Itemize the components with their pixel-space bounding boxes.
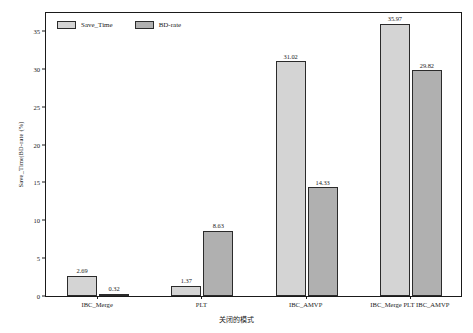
legend-entry-save-time: Save_Time <box>57 21 113 29</box>
bar-value-label: 0.32 <box>109 285 120 292</box>
bar-value-label: 8.63 <box>213 222 224 229</box>
y-tick-label: 30 <box>14 65 40 72</box>
chart-legend: Save_Time BD-rate <box>53 19 185 31</box>
bar-value-label: 2.69 <box>77 267 88 274</box>
legend-entry-bd-rate: BD-rate <box>135 21 182 29</box>
x-tick-mark <box>201 296 202 299</box>
bar-bd-rate-3 <box>412 70 442 296</box>
legend-label-bd-rate: BD-rate <box>159 21 182 29</box>
bar-value-label: 14.33 <box>315 179 329 186</box>
y-tick-label: 5 <box>14 255 40 262</box>
bar-value-label: 31.02 <box>283 53 297 60</box>
bar-save-time-1 <box>171 286 201 296</box>
y-tick-label: 20 <box>14 141 40 148</box>
x-group-label: IBC_AMVP <box>289 301 322 308</box>
bar-bd-rate-2 <box>308 187 338 296</box>
bar-save-time-2 <box>276 61 306 296</box>
plot-area: 2.690.321.378.6331.0214.3335.9729.82 Sav… <box>45 12 462 297</box>
x-group-label: PLT <box>196 301 207 308</box>
y-tick-label: 15 <box>14 179 40 186</box>
bar-value-label: 29.82 <box>420 62 434 69</box>
x-axis-title: 关闭的模式 <box>0 314 473 324</box>
legend-swatch-bd-rate <box>135 21 154 29</box>
x-tick-mark <box>97 296 98 299</box>
y-tick-label: 10 <box>14 217 40 224</box>
x-group-label: IBC_Merge PLT IBC_AMVP <box>370 301 449 308</box>
bar-value-label: 35.97 <box>388 15 402 22</box>
x-tick-mark <box>306 296 307 299</box>
x-group-label: IBC_Merge <box>81 301 112 308</box>
bar-save-time-3 <box>380 24 410 296</box>
y-tick-label: 0 <box>14 293 40 300</box>
legend-label-save-time: Save_Time <box>81 21 113 29</box>
bar-save-time-0 <box>67 276 97 296</box>
y-tick-label: 25 <box>14 103 40 110</box>
x-tick-mark <box>410 296 411 299</box>
bar-value-label: 1.37 <box>181 277 192 284</box>
legend-swatch-save-time <box>57 21 76 29</box>
bar-bd-rate-0 <box>99 294 129 296</box>
bar-chart: Save_Time|BD-rate (%) 05101520253035 2.6… <box>0 0 473 333</box>
y-tick-label: 35 <box>14 27 40 34</box>
bar-bd-rate-1 <box>203 231 233 296</box>
